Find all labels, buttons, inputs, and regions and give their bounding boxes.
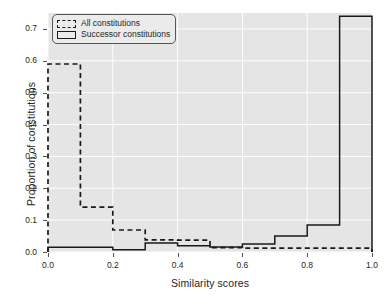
y-tick-label: 0.6 — [11, 55, 37, 65]
y-tick-mark — [43, 220, 47, 221]
y-tick-mark — [43, 156, 47, 157]
x-tick-mark — [113, 253, 114, 257]
x-tick-mark — [307, 253, 308, 257]
legend-swatch-solid-icon — [57, 31, 76, 39]
x-tick-mark — [178, 253, 179, 257]
legend-label-all-constitutions: All constitutions — [81, 18, 140, 29]
y-tick-mark — [43, 125, 47, 126]
x-tick-label: 0.2 — [98, 260, 128, 270]
y-tick-label: 0.3 — [11, 151, 37, 161]
plot-area — [0, 0, 388, 298]
x-tick-label: 0.6 — [227, 260, 257, 270]
x-tick-label: 0.0 — [33, 260, 63, 270]
y-tick-label: 0.7 — [11, 23, 37, 33]
x-tick-label: 0.8 — [292, 260, 322, 270]
legend-swatch-dashed-icon — [57, 20, 76, 28]
legend-label-successor-constitutions: Successor constitutions — [81, 29, 170, 40]
y-tick-mark — [43, 61, 47, 62]
y-tick-mark — [43, 252, 47, 253]
y-tick-label: 0.0 — [11, 247, 37, 257]
x-tick-mark — [372, 253, 373, 257]
y-tick-label: 0.5 — [11, 87, 37, 97]
plot-background — [48, 13, 372, 252]
y-tick-label: 0.4 — [11, 119, 37, 129]
y-tick-label: 0.2 — [11, 183, 37, 193]
chart-figure: Proportion of constitutions 0.00.10.20.3… — [0, 0, 388, 298]
legend-item-all-constitutions[interactable]: All constitutions — [57, 18, 170, 29]
x-tick-label: 0.4 — [163, 260, 193, 270]
y-tick-mark — [43, 93, 47, 94]
y-tick-mark — [43, 188, 47, 189]
y-tick-mark — [43, 29, 47, 30]
chart-legend: All constitutions Successor constitution… — [52, 14, 176, 44]
legend-item-successor-constitutions[interactable]: Successor constitutions — [57, 29, 170, 40]
x-tick-label: 1.0 — [357, 260, 387, 270]
x-tick-mark — [242, 253, 243, 257]
x-tick-mark — [48, 253, 49, 257]
x-axis-label: Similarity scores — [48, 277, 372, 289]
y-tick-label: 0.1 — [11, 215, 37, 225]
